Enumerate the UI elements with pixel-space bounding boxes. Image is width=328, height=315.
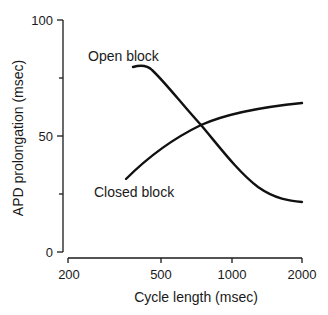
x-tick-500: 500 xyxy=(150,267,172,282)
open-block-curve xyxy=(133,66,302,202)
chart: 100 50 0 APD prolongation (msec) 200 500… xyxy=(0,0,328,315)
x-tick-1000: 1000 xyxy=(218,267,247,282)
open-block-label: Open block xyxy=(88,48,160,64)
x-tick-200: 200 xyxy=(58,267,80,282)
closed-block-label: Closed block xyxy=(94,184,175,200)
y-tick-50: 50 xyxy=(39,129,53,144)
x-axis-label: Cycle length (msec) xyxy=(134,289,258,305)
y-tick-100: 100 xyxy=(31,13,53,28)
y-tick-0: 0 xyxy=(46,245,53,260)
x-axis: 200 500 1000 2000 Cycle length (msec) xyxy=(58,258,316,305)
y-axis: 100 50 0 APD prolongation (msec) xyxy=(10,13,63,260)
x-tick-2000: 2000 xyxy=(288,267,317,282)
y-axis-label: APD prolongation (msec) xyxy=(10,60,26,216)
